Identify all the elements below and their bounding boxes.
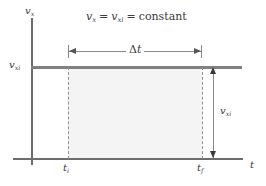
y-value-variable: v xyxy=(9,59,15,70)
y-axis-subscript: x xyxy=(31,10,35,17)
eq-equals-two: = xyxy=(127,10,136,23)
delta-t-label: Δt xyxy=(126,44,144,55)
eq-rhs-text: constant xyxy=(139,10,187,23)
x-tick-label-ti: ti xyxy=(63,163,69,173)
eq-lhs-subscript: x xyxy=(92,16,96,24)
x-axis-label: t xyxy=(250,160,254,170)
x-axis-line xyxy=(13,158,243,160)
equation-caption: vx=vxi=constant xyxy=(86,11,187,22)
delta-symbol: Δ xyxy=(129,43,137,56)
y-axis-variable: v xyxy=(25,5,31,16)
x-tick-label-tf: tf xyxy=(197,163,203,173)
y-axis-label: vx xyxy=(25,6,34,16)
displacement-area-shading xyxy=(68,68,202,158)
velocity-magnitude-label: vxi xyxy=(218,105,233,117)
dashed-line-tf xyxy=(202,67,203,159)
y-axis-line xyxy=(31,18,33,165)
tick-tf-subscript: f xyxy=(201,167,203,174)
delta-t-left-arrowhead-icon xyxy=(69,48,76,54)
velocity-magnitude-measure-line xyxy=(213,67,214,158)
measure-subscript: xi xyxy=(226,110,231,117)
velocity-time-graph: Δt vxi vx vxi t ti tf vx=vxi=constant xyxy=(0,0,266,186)
tick-ti-subscript: i xyxy=(67,167,69,174)
y-tick-label-vxi: vxi xyxy=(9,60,20,70)
velocity-measure-down-arrowhead-icon xyxy=(210,151,216,158)
eq-equals-one: = xyxy=(99,10,108,23)
dashed-line-ti xyxy=(68,67,69,159)
eq-mid-variable: v xyxy=(111,10,117,23)
y-value-subscript: xi xyxy=(15,64,20,71)
eq-mid-subscript: xi xyxy=(118,16,124,24)
measure-variable: v xyxy=(220,105,226,116)
delta-t-variable: t xyxy=(137,43,141,56)
velocity-measure-up-arrowhead-icon xyxy=(210,67,216,74)
delta-t-right-arrowhead-icon xyxy=(194,48,201,54)
delta-t-right-cap xyxy=(201,45,202,58)
